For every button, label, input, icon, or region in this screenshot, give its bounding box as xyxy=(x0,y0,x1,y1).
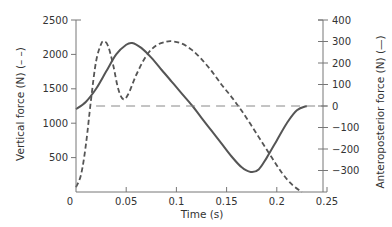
x-tick-label: 0.25 xyxy=(316,196,338,207)
right-tick-label: −100 xyxy=(332,122,359,133)
right-tick-label: 400 xyxy=(332,15,351,26)
force-time-chart: 5001000150020002500 −300−200−10001002003… xyxy=(0,0,392,227)
x-tick-label: 0 xyxy=(67,196,73,207)
right-tick-label: −200 xyxy=(332,144,359,155)
left-axis-label: Vertical force (N) (– –) xyxy=(14,47,26,161)
right-axis-label: Anteroposterior force (N) (—) xyxy=(374,35,386,188)
x-axis: 00.050.10.150.20.25 xyxy=(67,187,338,207)
x-tick-label: 0.2 xyxy=(269,196,285,207)
right-tick-label: −300 xyxy=(332,165,359,176)
left-axis: 5001000150020002500 xyxy=(43,15,81,193)
left-tick-label: 2500 xyxy=(43,15,68,26)
left-tick-label: 1500 xyxy=(43,83,68,94)
left-tick-label: 500 xyxy=(49,152,68,163)
left-tick-label: 2000 xyxy=(43,49,68,60)
left-tick-label: 1000 xyxy=(43,118,68,129)
plot-lines xyxy=(76,41,327,192)
right-axis: −300−200−1000100200300400 xyxy=(318,15,359,193)
anteroposterior-force-line xyxy=(76,43,307,172)
x-tick-label: 0.15 xyxy=(215,196,237,207)
right-tick-label: 300 xyxy=(332,36,351,47)
right-tick-label: 100 xyxy=(332,79,351,90)
x-axis-label: Time (s) xyxy=(180,208,224,220)
x-tick-label: 0.1 xyxy=(168,196,184,207)
right-tick-label: 200 xyxy=(332,58,351,69)
right-tick-label: 0 xyxy=(332,101,338,112)
x-tick-label: 0.05 xyxy=(115,196,137,207)
